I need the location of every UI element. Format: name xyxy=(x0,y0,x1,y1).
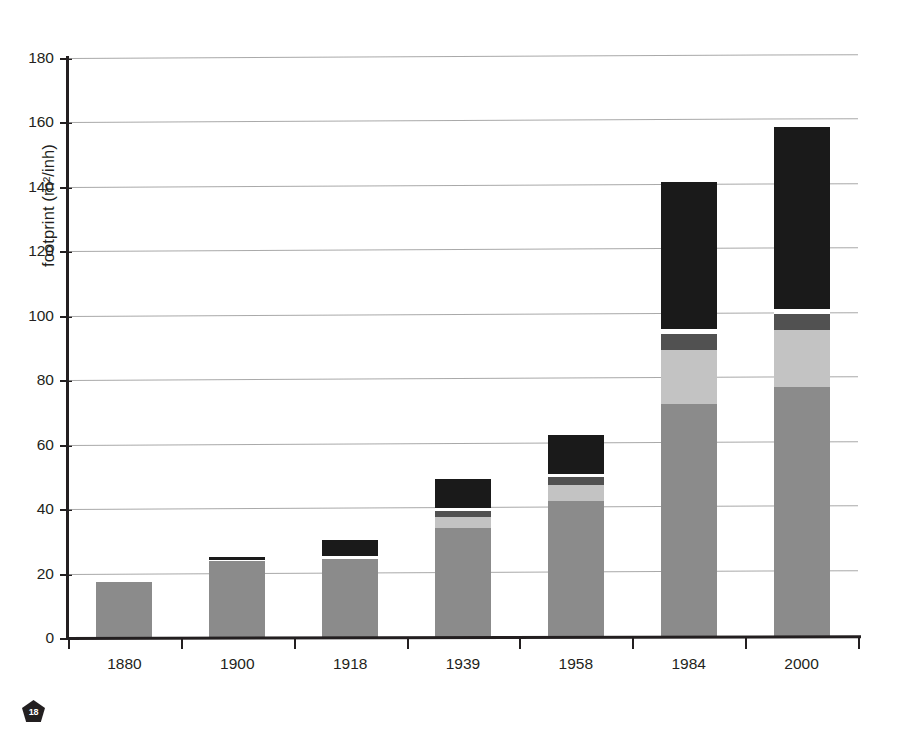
bar-column xyxy=(661,58,717,638)
bar-segment xyxy=(435,479,491,508)
page-number-badge: 18 xyxy=(22,700,45,722)
y-axis-line xyxy=(66,56,69,640)
y-axis-tick-label: 180 xyxy=(8,49,54,67)
bar-segment xyxy=(322,540,378,557)
bar-segment xyxy=(548,501,604,638)
bar-segment xyxy=(548,474,604,477)
x-axis-tick-label: 1939 xyxy=(408,655,518,673)
bar-column xyxy=(209,58,265,638)
bar-column xyxy=(435,58,491,638)
bar-column xyxy=(322,58,378,638)
y-axis-tick-label: 20 xyxy=(8,565,54,583)
bar-column xyxy=(96,58,152,638)
bar-segment xyxy=(322,556,378,559)
y-axis-tick-label: 140 xyxy=(8,178,54,196)
y-axis-tick-label: 40 xyxy=(8,500,54,518)
y-axis-tick-label: 0 xyxy=(8,629,54,647)
y-axis-title: footprint (m²/inh) xyxy=(39,66,58,346)
bar-segment xyxy=(774,309,830,314)
bar-segment xyxy=(774,127,830,309)
y-axis-tick-label: 100 xyxy=(8,307,54,325)
x-axis-tick xyxy=(632,638,634,649)
x-axis-tick xyxy=(519,638,521,649)
x-axis-tick-label: 1900 xyxy=(182,655,292,673)
y-axis-tick-label: 160 xyxy=(8,113,54,131)
bar-segment xyxy=(774,387,830,638)
bar-segment xyxy=(774,314,830,330)
x-axis-tick-label: 1958 xyxy=(521,655,631,673)
bar-segment xyxy=(209,561,265,638)
bar-segment xyxy=(435,528,491,638)
x-axis-tick-label: 1984 xyxy=(634,655,744,673)
x-axis-tick xyxy=(745,638,747,649)
y-axis-tick-label: 60 xyxy=(8,436,54,454)
x-axis-tick xyxy=(294,638,296,649)
bar-column xyxy=(548,58,604,638)
bar-segment xyxy=(435,508,491,511)
bar-segment xyxy=(774,330,830,386)
x-axis-tick-label: 1918 xyxy=(295,655,405,673)
bar-segment xyxy=(661,334,717,350)
bar-segment xyxy=(435,517,491,528)
bar-segment xyxy=(661,350,717,405)
page-number-text: 18 xyxy=(22,700,45,722)
y-axis-tick-label: 120 xyxy=(8,242,54,260)
bar-segment xyxy=(548,477,604,485)
x-axis-tick xyxy=(407,638,409,649)
bar-segment xyxy=(96,582,152,638)
bar-segment xyxy=(322,559,378,638)
bar-segment xyxy=(661,329,717,334)
bar-column xyxy=(774,58,830,638)
x-axis-tick xyxy=(68,638,70,649)
plot-area xyxy=(68,58,858,638)
bar-segment xyxy=(661,182,717,329)
bar-segment xyxy=(548,435,604,474)
x-axis-tick-label: 1880 xyxy=(69,655,179,673)
x-axis-line xyxy=(66,635,861,640)
bar-segment xyxy=(209,557,265,559)
x-axis-tick-label: 2000 xyxy=(747,655,857,673)
y-axis-tick-label: 80 xyxy=(8,371,54,389)
chart-figure: footprint (m²/inh) 020406080100120140160… xyxy=(0,0,902,730)
bar-segment xyxy=(661,404,717,638)
x-axis-tick xyxy=(181,638,183,649)
x-axis-tick xyxy=(858,638,860,649)
bar-segment xyxy=(209,560,265,562)
bar-segment xyxy=(435,511,491,517)
bar-segment xyxy=(548,485,604,501)
